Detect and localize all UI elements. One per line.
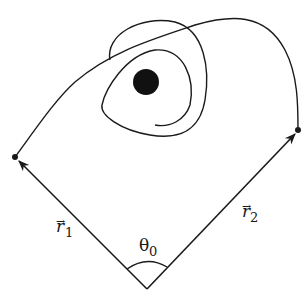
vector-r1-label: → r 1 [56, 215, 73, 240]
vector-r1-subscript: 1 [65, 225, 73, 240]
angle-arc [127, 261, 167, 269]
position-dot-1 [12, 154, 18, 160]
angle-symbol: θ [139, 235, 149, 255]
vector-r2-line [147, 134, 295, 289]
vector-r1-symbol: r [56, 216, 65, 236]
angle-subscript: 0 [149, 244, 157, 259]
central-body [133, 69, 159, 95]
angle-label: θ 0 [139, 235, 157, 259]
trajectory-diagram: → r 1 → r 2 θ 0 [0, 0, 308, 302]
vector-r2-subscript: 2 [250, 210, 258, 225]
position-dot-2 [295, 127, 301, 133]
vector-r2-label: → r 2 [242, 200, 258, 225]
vector-r1-line [19, 161, 147, 289]
